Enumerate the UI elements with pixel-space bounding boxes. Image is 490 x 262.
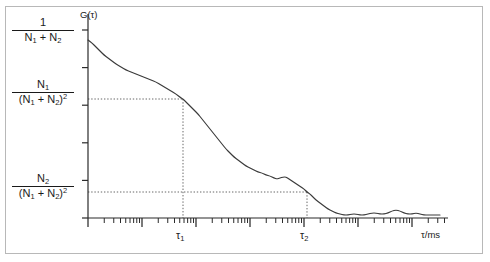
plot-area [0, 0, 490, 262]
guide-lines [88, 99, 307, 218]
figure-container: 1 N1 + N2 N1 (N1 + N2)2 N2 (N1 + N2)2 G(… [0, 0, 490, 262]
decay-curve [88, 40, 440, 215]
axis-ticks [82, 30, 445, 227]
axis-lines [88, 14, 448, 218]
